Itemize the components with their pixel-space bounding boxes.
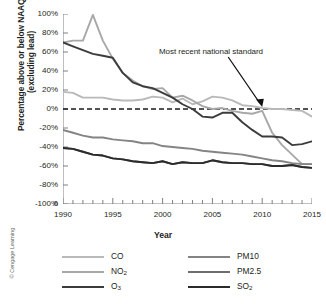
y-tick-label: -40% xyxy=(24,143,58,151)
y-tick-label: -20% xyxy=(24,124,58,132)
x-axis-title: Year xyxy=(0,230,326,240)
y-tick-label: -60% xyxy=(24,162,58,170)
legend-label: SO2 xyxy=(237,280,253,294)
legend-label: O3 xyxy=(111,280,121,294)
legend-item[interactable]: CO xyxy=(62,250,177,265)
x-tick-label: 1990 xyxy=(43,211,83,219)
legend-label-text: NO xyxy=(111,266,124,276)
x-tick-label: 2005 xyxy=(192,211,232,219)
x-tick-label: 2000 xyxy=(143,211,183,219)
legend-swatch xyxy=(62,271,104,273)
legend-swatch xyxy=(188,286,230,288)
legend-label-text: PM2.5 xyxy=(237,266,261,276)
y-tick-label: 0% xyxy=(24,105,58,113)
legend-swatch xyxy=(62,256,104,258)
y-tick-label: 20% xyxy=(24,86,58,94)
legend-label-subscript: 2 xyxy=(249,284,252,291)
legend-item[interactable]: NO2 xyxy=(62,265,177,280)
chart-legend: CONO2O3PM10PM2.5SO2 xyxy=(62,250,292,298)
annotation-label: Most recent national standard xyxy=(159,47,263,56)
legend-item[interactable]: SO2 xyxy=(188,280,303,295)
legend-swatch xyxy=(188,256,230,258)
chart-canvas xyxy=(63,14,312,204)
legend-label-text: CO xyxy=(111,251,124,261)
x-tick-label: 1995 xyxy=(93,211,133,219)
legend-label: PM2.5 xyxy=(237,265,261,278)
legend-label-text: SO xyxy=(237,281,249,291)
x-tick-label: 2010 xyxy=(242,211,282,219)
y-tick-label: 60% xyxy=(24,48,58,56)
legend-label-subscript: 2 xyxy=(124,269,127,276)
y-tick-label: -80% xyxy=(24,181,58,189)
legend-label: PM10 xyxy=(237,250,259,263)
y-tick-label: 100% xyxy=(24,10,58,18)
plot-area xyxy=(63,14,312,204)
legend-item[interactable]: PM10 xyxy=(188,250,303,265)
y-tick-label: 40% xyxy=(24,67,58,75)
legend-swatch xyxy=(188,271,230,273)
figure-root: © Cengage Learning Percentage above or b… xyxy=(0,0,326,304)
legend-label: NO2 xyxy=(111,265,127,279)
legend-label-subscript: 3 xyxy=(118,284,121,291)
legend-item[interactable]: PM2.5 xyxy=(188,265,303,280)
legend-item[interactable]: O3 xyxy=(62,280,177,295)
legend-label-text: PM10 xyxy=(237,251,259,261)
legend-column: PM10PM2.5SO2 xyxy=(188,250,303,295)
y-axis-break-label: 0 xyxy=(24,200,58,208)
x-tick-label: 2015 xyxy=(292,211,326,219)
legend-swatch xyxy=(62,286,104,288)
legend-label: CO xyxy=(111,250,124,263)
y-tick-label: 80% xyxy=(24,29,58,37)
legend-column: CONO2O3 xyxy=(62,250,177,295)
